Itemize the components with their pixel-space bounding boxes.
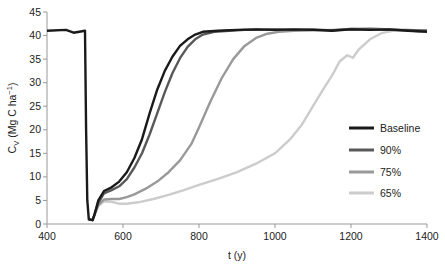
y-tick-label: 30: [29, 76, 41, 88]
y-tick-label: 45: [29, 6, 41, 18]
y-tick-label: 40: [29, 29, 41, 41]
x-tick-label: 1200: [339, 230, 363, 242]
y-tick-label: 0: [35, 218, 41, 230]
y-axis-title: CV (Mg C ha−1): [5, 83, 21, 154]
x-tick-label: 1400: [415, 230, 439, 242]
y-tick-label: 25: [29, 100, 41, 112]
y-tick-label: 20: [29, 123, 41, 135]
legend-label: 75%: [380, 166, 401, 178]
legend: Baseline90%75%65%: [349, 122, 420, 199]
y-tick-label: 35: [29, 53, 41, 65]
y-tick-label: 5: [35, 194, 41, 206]
line-chart: 051015202530354045 400600800100012001400…: [0, 0, 445, 265]
y-tick-label: 10: [29, 170, 41, 182]
x-tick-label: 1000: [263, 230, 287, 242]
y-tick-label: 15: [29, 147, 41, 159]
legend-label: 65%: [380, 187, 401, 199]
series-line-75pct: [89, 29, 427, 221]
legend-label: Baseline: [380, 122, 420, 134]
y-axis: 051015202530354045: [29, 6, 47, 230]
x-axis: 400600800100012001400: [38, 224, 439, 242]
x-tick-label: 400: [38, 230, 56, 242]
legend-label: 90%: [380, 144, 401, 156]
x-tick-label: 800: [190, 230, 208, 242]
x-tick-label: 600: [114, 230, 132, 242]
plot-lines: [47, 29, 427, 221]
x-axis-title: t (y): [228, 249, 246, 261]
